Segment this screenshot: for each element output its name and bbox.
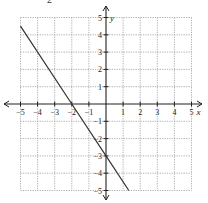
y-tick-label: 3 — [98, 48, 102, 57]
x-axis-label: x — [196, 107, 201, 117]
x-tick-label: 3 — [155, 108, 159, 117]
y-axis-label: y — [109, 13, 114, 23]
x-tick-label: 5 — [190, 108, 194, 117]
y-tick-label: 4 — [98, 31, 102, 40]
y-tick-label: 2 — [98, 65, 102, 74]
x-tick-label: 4 — [172, 108, 176, 117]
x-tick-label: −4 — [33, 108, 42, 117]
x-tick-label: −5 — [16, 108, 25, 117]
x-tick-label: 1 — [121, 108, 125, 117]
x-tick-label: −1 — [85, 108, 94, 117]
y-tick-label: −1 — [93, 117, 102, 126]
y-tick-label: 1 — [98, 83, 102, 92]
y-tick-label: −4 — [93, 169, 102, 178]
x-tick-label: −3 — [50, 108, 59, 117]
x-tick-label: 2 — [138, 108, 142, 117]
coordinate-plane: −5−4−3−2−11234554321−1−2−3−4−5yx — [0, 0, 208, 203]
y-tick-label: −3 — [93, 152, 102, 161]
y-tick-label: −5 — [93, 187, 102, 196]
y-tick-label: 5 — [98, 14, 102, 23]
